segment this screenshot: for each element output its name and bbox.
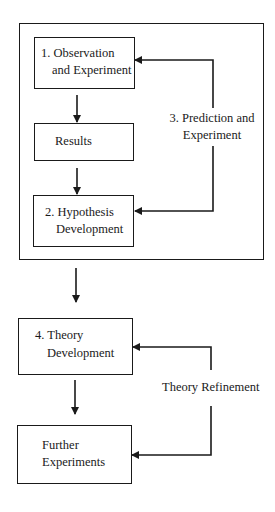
edge-label-refinement-text: Theory Refinement bbox=[162, 380, 260, 394]
node-theory-line2: Development bbox=[47, 345, 114, 362]
node-observation-line2: and Experiment bbox=[52, 62, 132, 79]
edge-label-refinement: Theory Refinement bbox=[162, 379, 260, 396]
node-further-line1: Further bbox=[42, 437, 79, 454]
node-further-experiments: Further Experiments bbox=[17, 425, 132, 484]
node-hypothesis: 2. Hypothesis Development bbox=[33, 195, 134, 247]
arrow-prediction-upper bbox=[135, 60, 213, 108]
node-observation: 1. Observation and Experiment bbox=[34, 37, 135, 89]
edge-label-prediction-line2: Experiment bbox=[168, 127, 256, 144]
node-results-label: Results bbox=[55, 133, 92, 150]
node-further-line2: Experiments bbox=[42, 454, 105, 471]
node-observation-line1: 1. Observation bbox=[41, 45, 115, 62]
arrow-refinement-lower bbox=[132, 406, 211, 455]
node-results: Results bbox=[34, 123, 134, 161]
node-theory-line1: 4. Theory bbox=[35, 327, 83, 344]
node-hypothesis-line1: 2. Hypothesis bbox=[45, 204, 114, 221]
node-hypothesis-line2: Development bbox=[56, 221, 123, 238]
node-theory: 4. Theory Development bbox=[18, 318, 133, 375]
arrow-prediction-lower bbox=[135, 146, 213, 211]
scientific-method-diagram: 1. Observation and Experiment Results 2.… bbox=[0, 0, 275, 512]
edge-label-prediction: 3. Prediction and Experiment bbox=[168, 110, 256, 144]
arrow-refinement-upper bbox=[133, 347, 211, 370]
edge-label-prediction-line1: 3. Prediction and bbox=[168, 110, 256, 127]
